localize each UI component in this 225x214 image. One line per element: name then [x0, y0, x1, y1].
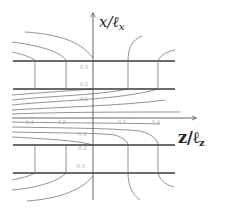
contour-curve: [12, 137, 93, 145]
contour-curve: [12, 122, 160, 124]
diagram: x/ℓx z/ℓz 0.3 0.2 0.1 -0.1 -0.2 -0.3 -0.…: [0, 0, 225, 214]
contour-curve: [12, 89, 93, 95]
horizontal-boundaries: [13, 61, 175, 173]
vertical-segments: [35, 61, 158, 173]
contour-curve: [12, 100, 165, 110]
contour-curve: [12, 173, 35, 180]
x-tick-label: -0.3: [75, 163, 85, 169]
z-tick-labels: -0.4 -0.2 0.2 0.4: [24, 119, 160, 125]
x-tick-labels: 0.3 0.2 0.1 -0.1 -0.2 -0.3: [75, 64, 88, 169]
x-tick-label: 0.3: [80, 64, 88, 70]
contour-curve: [27, 176, 93, 201]
contour-curve: [12, 42, 66, 60]
z-tick-label: -0.2: [56, 119, 66, 125]
x-axis-label: x/ℓx: [99, 13, 125, 32]
contours-upper-middle: [12, 89, 180, 114]
contours-upper-right: [128, 36, 175, 61]
x-tick-label: -0.1: [77, 131, 87, 137]
contour-curve: [12, 52, 35, 60]
x-tick-label: -0.2: [77, 145, 87, 151]
z-tick-label: 0.2: [118, 119, 126, 125]
contours-lower-right: [128, 173, 174, 200]
z-tick-label: 0.4: [152, 119, 160, 125]
x-tick-label: 0.1: [80, 96, 88, 102]
contour-curve: [128, 36, 142, 61]
x-tick-label: 0.2: [80, 81, 88, 87]
contour-curve: [12, 132, 128, 145]
contour-curve: [12, 112, 180, 114]
contour-curve: [158, 50, 175, 61]
contours-lower-left: [12, 173, 93, 201]
contour-curve: [128, 173, 140, 200]
z-tick-label: -0.4: [24, 119, 34, 125]
z-axis-label: z/ℓz: [178, 128, 205, 148]
contour-curve: [158, 173, 174, 187]
contour-curve: [12, 173, 66, 190]
contours-upper-left: [12, 32, 93, 60]
